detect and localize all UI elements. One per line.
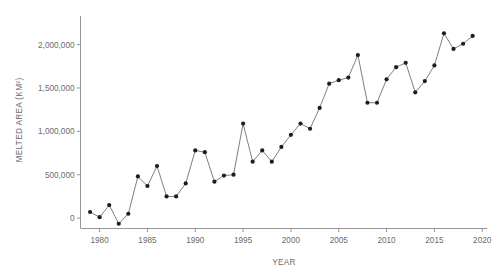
x-tick-label: 1985 [138,236,157,245]
data-point [451,47,455,51]
y-tick-label: 0 [70,214,75,223]
y-tick-label: 500,000 [45,171,75,180]
data-point [375,101,379,105]
y-tick-label: 1,000,000 [38,127,75,136]
data-series-group [88,31,475,226]
data-point [270,160,274,164]
data-point [184,181,188,185]
data-point [222,173,226,177]
x-tick-label: 2015 [425,236,444,245]
data-point [423,79,427,83]
y-tick-label: 2,000,000 [38,41,75,50]
data-point [308,127,312,131]
x-tick-label: 1990 [186,236,205,245]
data-point [432,63,436,67]
data-point [98,215,102,219]
data-point [260,148,264,152]
x-tick-label: 2000 [282,236,301,245]
x-tick-label: 1995 [234,236,253,245]
x-tick-label: 2010 [377,236,396,245]
data-point [193,148,197,152]
x-tick-label: 1980 [91,236,110,245]
data-point [155,164,159,168]
melted-area-line-chart: 0500,0001,000,0001,500,0002,000,000 MELT… [0,0,494,280]
data-point [174,194,178,198]
data-point [318,106,322,110]
y-axis: 0500,0001,000,0001,500,0002,000,000 MELT… [15,16,81,228]
data-point [251,160,255,164]
series-markers-melted-area [88,31,475,226]
chart-canvas: 0500,0001,000,0001,500,0002,000,000 MELT… [0,0,494,280]
data-point [203,150,207,154]
y-tick-label: 1,500,000 [38,84,75,93]
data-point [442,31,446,35]
data-point [241,121,245,125]
data-point [404,61,408,65]
data-point [107,203,111,207]
data-point [145,184,149,188]
data-point [384,77,388,81]
y-axis-title: MELTED AREA (KM²) [15,78,24,163]
x-axis-title: YEAR [272,258,296,267]
x-tick-label: 2020 [473,236,492,245]
data-point [126,212,130,216]
data-point [327,82,331,86]
data-point [461,42,465,46]
y-tick-group: 0500,0001,000,0001,500,0002,000,000 [38,41,80,223]
data-point [337,78,341,82]
data-point [356,53,360,57]
data-point [231,173,235,177]
data-point [136,174,140,178]
data-point [394,65,398,69]
data-point [413,90,417,94]
series-line-melted-area [90,33,473,223]
x-tick-label: 2005 [330,236,349,245]
data-point [279,145,283,149]
data-point [346,75,350,79]
x-tick-group: 198019851990199520002005201020152020 [91,229,492,245]
data-point [471,34,475,38]
data-point [117,222,121,226]
data-point [298,121,302,125]
data-point [88,210,92,214]
data-point [212,180,216,184]
x-axis: 198019851990199520002005201020152020 YEA… [81,229,492,268]
data-point [289,133,293,137]
data-point [365,101,369,105]
data-point [164,194,168,198]
